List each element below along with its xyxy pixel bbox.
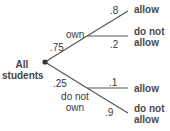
own-allow-prob: .8 [110,6,118,16]
own-allow-label: allow [134,5,159,15]
own-prob: .75 [50,43,64,53]
do-not-own-label-line2: own [60,103,90,113]
do-not-own-label-line1: do not [60,92,90,102]
own-label: own [66,30,84,40]
do-not-own-allow-prob: .1 [109,78,117,88]
do-not-own-prob: .25 [53,79,67,89]
do-not-own-do-not-allow-prob: .9 [105,108,113,118]
own-do-not-allow-prob: .2 [110,40,118,50]
own-do-not-allow-line1: do not [134,27,165,37]
root-node-dot [42,59,47,64]
do-not-own-do-not-allow-label: do not allow [134,104,165,125]
do-not-own-do-not-allow-line2: allow [134,115,165,125]
own-do-not-allow-label: do not allow [134,27,165,48]
do-not-own-label: do not own [60,92,90,113]
do-not-own-do-not-allow-line1: do not [134,104,165,114]
root-label: All students [2,60,42,81]
root-label-line2: students [2,71,42,81]
own-do-not-allow-line2: allow [134,38,165,48]
root-label-line1: All [2,60,42,70]
branch-own-allow [87,11,128,36]
do-not-own-allow-label: allow [134,84,159,94]
